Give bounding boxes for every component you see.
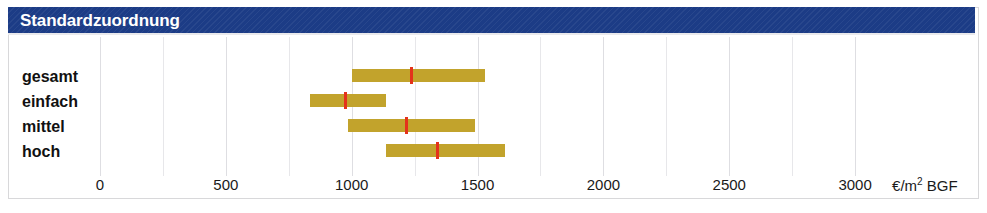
tick-label-2500: 2500 [713, 176, 746, 193]
bar-row [9, 89, 978, 114]
range-bar-mittel [348, 119, 475, 132]
tick-label-1000: 1000 [335, 176, 368, 193]
chart-bars [9, 37, 978, 176]
value-axis: 050010001500200025003000€/m2 BGF [9, 176, 978, 198]
median-marker-gesamt [410, 67, 413, 84]
median-marker-einfach [344, 92, 347, 109]
chart-title-band: Standardzuordnung [8, 7, 975, 35]
standardzuordnung-chart-widget: Standardzuordnung gesamt einfach mittel … [0, 0, 987, 213]
tick-label-3000: 3000 [838, 176, 871, 193]
tick-label-0: 0 [96, 176, 104, 193]
bar-row [9, 64, 978, 89]
tick-label-2000: 2000 [587, 176, 620, 193]
median-marker-hoch [436, 142, 439, 159]
range-bar-hoch [386, 144, 506, 157]
range-bar-einfach [310, 94, 386, 107]
axis-unit-label: €/m2 BGF [892, 176, 958, 194]
range-bar-gesamt [352, 69, 485, 82]
median-marker-mittel [405, 117, 408, 134]
chart-plot-area: gesamt einfach mittel hoch 0500100015002… [9, 37, 978, 198]
bar-row [9, 114, 978, 139]
bar-row [9, 139, 978, 164]
tick-label-1500: 1500 [461, 176, 494, 193]
tick-label-500: 500 [213, 176, 238, 193]
page-title: Standardzuordnung [20, 11, 180, 31]
